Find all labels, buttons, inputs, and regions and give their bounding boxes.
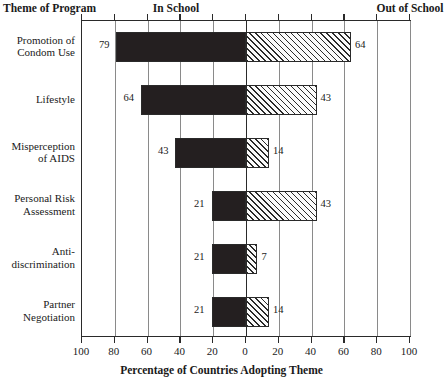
category-label-line: Personal Risk <box>0 192 75 205</box>
axis-tick-label: 100 <box>394 345 424 357</box>
value-label-in-school: 21 <box>177 304 205 315</box>
tick-mark-bottom <box>212 337 213 343</box>
tick-mark-top <box>278 14 279 20</box>
tick-mark-top <box>245 14 246 20</box>
category-label: Personal RiskAssessment <box>0 192 75 217</box>
value-label-in-school: 43 <box>140 145 168 156</box>
chart-plot-area <box>81 20 411 337</box>
tick-mark-bottom <box>81 337 82 343</box>
bar-out-of-school <box>246 297 269 327</box>
tick-mark-top <box>343 14 344 20</box>
axis-tick-label: 60 <box>328 345 358 357</box>
tick-mark-top <box>179 14 180 20</box>
bar-out-of-school <box>246 244 257 274</box>
tick-mark-bottom <box>114 337 115 343</box>
value-label-out-of-school: 43 <box>321 198 332 209</box>
tick-mark-bottom <box>278 337 279 343</box>
gridline <box>148 21 149 336</box>
gridline <box>410 21 411 336</box>
category-label: Lifestyle <box>0 93 75 106</box>
gridline <box>344 21 345 336</box>
tick-mark-bottom <box>343 337 344 343</box>
out-of-school-header: Out of School <box>245 2 448 14</box>
tick-mark-bottom <box>409 337 410 343</box>
bar-in-school <box>212 244 246 274</box>
category-label-line: Misperception <box>0 140 75 153</box>
gridline <box>279 21 280 336</box>
gridline <box>377 21 378 336</box>
category-label: Misperceptionof AIDS <box>0 140 75 165</box>
category-label-line: Lifestyle <box>0 93 75 106</box>
category-label-line: discrimination <box>0 258 75 271</box>
bar-out-of-school <box>246 138 269 168</box>
tick-mark-bottom <box>147 337 148 343</box>
tick-mark-bottom <box>311 337 312 343</box>
category-label-line: Assessment <box>0 205 75 218</box>
axis-tick-labels: 10080604020020406080100 <box>0 345 443 361</box>
tick-mark-bottom <box>245 337 246 343</box>
category-label-line: Promotion of <box>0 34 75 47</box>
value-label-in-school: 21 <box>177 198 205 209</box>
category-label-line: Anti- <box>0 245 75 258</box>
category-label: Anti-discrimination <box>0 245 75 270</box>
category-labels: Promotion ofCondom UseLifestyleMispercep… <box>0 20 79 337</box>
bar-out-of-school <box>246 32 351 62</box>
axis-title: Percentage of Countries Adopting Theme <box>0 364 443 376</box>
axis-tick-label: 100 <box>66 345 96 357</box>
category-label-line: Partner <box>0 298 75 311</box>
axis-tick-label: 40 <box>296 345 326 357</box>
axis-tick-label: 80 <box>99 345 129 357</box>
tick-mark-top <box>114 14 115 20</box>
axis-tick-label: 0 <box>230 345 260 357</box>
value-label-in-school: 64 <box>106 92 134 103</box>
axis-tick-label: 80 <box>361 345 391 357</box>
gridline <box>180 21 181 336</box>
tick-mark-top <box>212 14 213 20</box>
axis-tick-label: 20 <box>197 345 227 357</box>
value-label-out-of-school: 14 <box>273 145 284 156</box>
tick-mark-top <box>409 14 410 20</box>
axis-tick-label: 20 <box>263 345 293 357</box>
axis-tick-label: 40 <box>164 345 194 357</box>
category-label: PartnerNegotiation <box>0 298 75 323</box>
gridline <box>312 21 313 336</box>
bar-in-school <box>212 297 246 327</box>
value-label-out-of-school: 14 <box>273 304 284 315</box>
gridline <box>115 21 116 336</box>
bar-in-school <box>116 32 246 62</box>
axis-tick-label: 60 <box>132 345 162 357</box>
value-label-in-school: 79 <box>81 39 109 50</box>
zero-axis-line <box>246 21 247 336</box>
bar-in-school <box>141 85 246 115</box>
category-label-line: Negotiation <box>0 311 75 324</box>
tick-mark-bottom <box>376 337 377 343</box>
bar-out-of-school <box>246 191 317 221</box>
category-label: Promotion ofCondom Use <box>0 34 75 59</box>
tick-mark-top <box>376 14 377 20</box>
category-label-line: Condom Use <box>0 46 75 59</box>
bar-in-school <box>212 191 246 221</box>
value-label-out-of-school: 43 <box>321 92 332 103</box>
tick-mark-top <box>311 14 312 20</box>
tick-mark-bottom <box>179 337 180 343</box>
value-label-in-school: 21 <box>177 251 205 262</box>
value-label-out-of-school: 7 <box>261 251 266 262</box>
bar-in-school <box>175 138 246 168</box>
gridline <box>213 21 214 336</box>
bar-out-of-school <box>246 85 317 115</box>
value-label-out-of-school: 64 <box>355 39 366 50</box>
tick-mark-top <box>147 14 148 20</box>
category-label-line: of AIDS <box>0 152 75 165</box>
tick-mark-top <box>81 14 82 20</box>
